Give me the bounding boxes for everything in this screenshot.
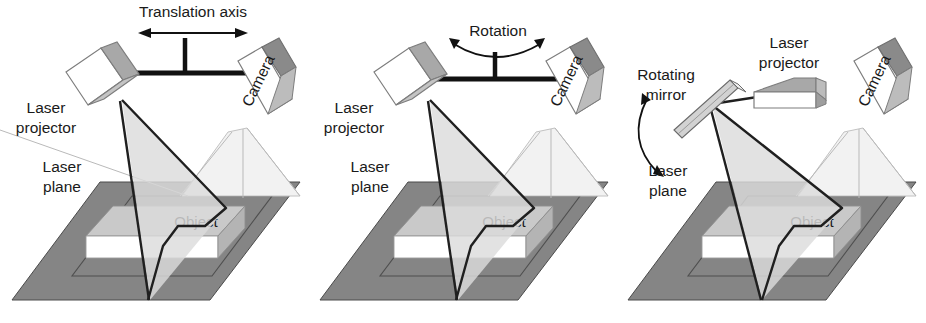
motion-label: Translation axis (139, 3, 247, 20)
laser-projector (754, 78, 826, 108)
panel-translation: Object (0, 0, 310, 323)
laser-projector-label-line1: Laser (770, 34, 809, 51)
camera: Camera (854, 38, 912, 114)
laser-plane-label-line2: plane (351, 178, 389, 195)
rotating-mirror-label-line1: Rotating (637, 66, 695, 83)
laser-projector-label-line2: projector (759, 54, 819, 71)
laser-plane-label-line2: plane (649, 182, 687, 199)
figure-laser-scanning-configurations: Object (0, 0, 926, 323)
camera: Camera (546, 38, 604, 114)
panel-rotating-mirror: Object (616, 0, 926, 323)
laser-projector-label-line1: Laser (335, 99, 374, 116)
camera: Camera (238, 38, 296, 114)
laser-plane-label-line1: Laser (649, 162, 688, 179)
laser-plane-label-line1: Laser (43, 158, 82, 175)
laser-plane-label-line2: plane (43, 178, 81, 195)
laser-projector-label-line1: Laser (27, 99, 66, 116)
laser-projector-label-line2: projector (324, 119, 384, 136)
laser-projector (374, 42, 447, 105)
rotating-mirror-label-line2: mirror (646, 86, 686, 103)
laser-projector-label-line2: projector (16, 119, 76, 136)
translation-axis-arrow (138, 28, 248, 38)
laser-plane-label-line1: Laser (351, 158, 390, 175)
laser-projector (66, 42, 139, 105)
motion-label: Rotation (469, 22, 527, 39)
panel-rotation: Object Rotation (308, 0, 618, 323)
